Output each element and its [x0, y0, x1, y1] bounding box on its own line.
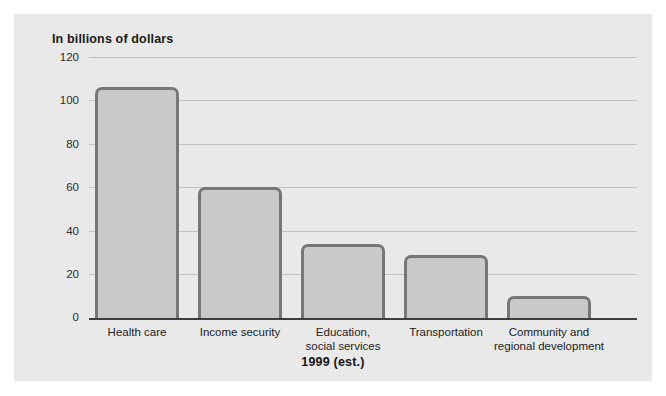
ytick-label-40: 40 — [33, 226, 79, 238]
bar-income-security[interactable] — [198, 187, 282, 318]
category-label-education-social-services: Education, social services — [283, 325, 403, 353]
ytick-label-120: 120 — [33, 52, 79, 64]
bar-transportation[interactable] — [404, 255, 488, 318]
bar-education-social-services[interactable] — [301, 244, 385, 318]
ytick-label-100: 100 — [33, 95, 79, 107]
ytick-label-20: 20 — [33, 269, 79, 281]
chart-figure: In billions of dollars 120 100 80 60 40 … — [0, 0, 666, 396]
category-label-income-security: Income security — [180, 325, 300, 339]
chart-panel: In billions of dollars 120 100 80 60 40 … — [14, 14, 652, 381]
ytick-label-80: 80 — [33, 139, 79, 151]
ytick-label-0: 0 — [33, 312, 79, 324]
x-axis-title: 1999 (est.) — [14, 355, 652, 369]
chart-title: In billions of dollars — [52, 32, 173, 46]
gridline-120 — [89, 57, 637, 58]
ytick-label-60: 60 — [33, 182, 79, 194]
category-label-community-regional-development: Community and regional development — [482, 325, 616, 353]
x-axis-line — [89, 318, 637, 320]
bar-health-care[interactable] — [95, 87, 179, 318]
bar-community-regional-development[interactable] — [507, 296, 591, 318]
category-label-health-care: Health care — [77, 325, 197, 339]
